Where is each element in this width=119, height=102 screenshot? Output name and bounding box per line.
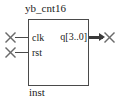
module-name-label: yb_cnt16 bbox=[25, 2, 66, 15]
input-wire-clk[interactable] bbox=[15, 37, 29, 38]
port-label-q: q[3..0] bbox=[60, 31, 87, 42]
port-label-clk: clk bbox=[32, 32, 44, 43]
bus-arrow-icon bbox=[99, 33, 105, 41]
instance-name-label: inst bbox=[29, 86, 45, 99]
input-wire-rst[interactable] bbox=[15, 52, 29, 53]
port-label-rst: rst bbox=[32, 47, 42, 58]
schematic-symbol-canvas: yb_cnt16 clk rst q[3..0] inst bbox=[0, 0, 119, 102]
